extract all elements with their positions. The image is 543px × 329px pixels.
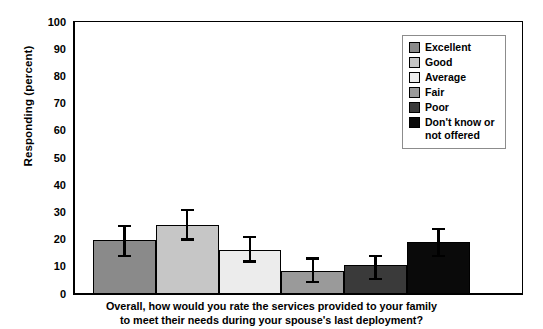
y-tick-label-60: 60: [36, 125, 66, 136]
error-bar-cap-upper: [306, 257, 319, 259]
caption-line-2: to meet their needs during your spouse's…: [0, 314, 543, 328]
legend-item-5: Poor: [409, 101, 499, 114]
y-tick-label-50: 50: [36, 153, 66, 164]
error-bar-5: [344, 256, 407, 294]
error-bar-cap-lower: [306, 281, 319, 283]
y-tick-label-100: 100: [36, 17, 66, 28]
error-bar-stem: [312, 259, 314, 282]
error-bar-cap-upper: [118, 225, 131, 227]
legend-item-label: Excellent: [425, 41, 471, 54]
legend-swatch-icon: [409, 57, 420, 68]
legend-item-label: Good: [425, 56, 452, 69]
y-tick-label-70: 70: [36, 98, 66, 109]
legend-item-4: Fair: [409, 86, 499, 99]
error-bar-1: [93, 226, 156, 294]
caption-line-1: Overall, how would you rate the services…: [0, 300, 543, 314]
error-bar-cap-lower: [432, 255, 445, 257]
legend-item-6: Don't know or not offered: [409, 116, 499, 142]
error-bar-6: [407, 229, 470, 294]
chart-legend: ExcellentGoodAverageFairPoorDon't know o…: [402, 35, 506, 149]
error-bar-cap-upper: [243, 236, 256, 238]
chart-caption: Overall, how would you rate the services…: [0, 300, 543, 327]
error-bar-cap-upper: [369, 255, 382, 257]
error-bar-cap-lower: [181, 238, 194, 240]
error-bar-cap-lower: [369, 278, 382, 280]
legend-swatch-icon: [409, 102, 420, 113]
bar-chart: Responding (percent) 0102030405060708090…: [0, 0, 543, 329]
error-bar-stem: [123, 226, 125, 256]
error-bar-cap-lower: [243, 260, 256, 262]
y-tick-label-30: 30: [36, 207, 66, 218]
legend-item-label: Poor: [425, 101, 449, 114]
legend-swatch-icon: [409, 42, 420, 53]
y-tick-label-0: 0: [36, 289, 66, 300]
legend-item-2: Good: [409, 56, 499, 69]
error-bar-cap-upper: [181, 209, 194, 211]
y-axis-label: Responding (percent): [22, 16, 34, 196]
error-bar-stem: [186, 210, 188, 240]
legend-item-1: Excellent: [409, 41, 499, 54]
error-bar-cap-lower: [118, 255, 131, 257]
y-tick-label-90: 90: [36, 44, 66, 55]
y-tick-label-80: 80: [36, 71, 66, 82]
legend-swatch-icon: [409, 87, 420, 98]
legend-item-3: Average: [409, 71, 499, 84]
legend-swatch-icon: [409, 72, 420, 83]
legend-swatch-icon: [409, 117, 420, 128]
y-tick-label-20: 20: [36, 234, 66, 245]
error-bar-stem: [249, 237, 251, 261]
error-bar-stem: [437, 229, 439, 256]
y-tick-label-10: 10: [36, 261, 66, 272]
error-bar-4: [281, 259, 344, 294]
legend-item-label: Average: [425, 71, 466, 84]
error-bar-stem: [374, 256, 376, 279]
legend-item-label: Fair: [425, 86, 444, 99]
error-bar-3: [219, 237, 282, 294]
error-bar-cap-upper: [432, 228, 445, 230]
y-tick-label-40: 40: [36, 180, 66, 191]
error-bar-2: [156, 210, 219, 294]
legend-item-label: Don't know or not offered: [425, 116, 495, 142]
